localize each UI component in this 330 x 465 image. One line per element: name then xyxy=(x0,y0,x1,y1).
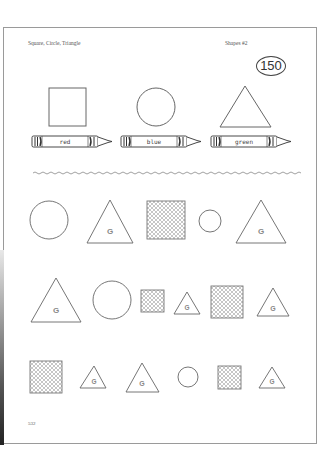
triangle-letter: G xyxy=(258,227,264,236)
hatched-square-shape xyxy=(211,286,243,318)
crayon-label-red: red xyxy=(60,138,71,145)
triangle-letter: G xyxy=(91,378,96,385)
hatched-square-shape xyxy=(147,201,185,239)
key-triangle xyxy=(220,86,271,127)
worksheet-artwork: red blue green G G G G G G G xyxy=(0,0,330,465)
triangle-shape xyxy=(236,200,286,243)
triangle-letter: G xyxy=(107,227,113,236)
key-circle xyxy=(137,88,175,126)
wavy-divider xyxy=(33,172,301,174)
circle-shape xyxy=(30,201,68,239)
hatched-square-shape xyxy=(218,366,241,389)
hatched-square-shape xyxy=(30,361,62,393)
triangle-shape xyxy=(126,363,159,392)
small-circle-shape xyxy=(199,210,221,232)
shape-row-1: G G xyxy=(30,200,286,243)
triangle-letter: G xyxy=(270,305,276,312)
key-square xyxy=(49,88,86,126)
crayon-green: green xyxy=(211,136,291,147)
hatched-square-shape xyxy=(141,290,164,312)
crayon-label-green: green xyxy=(235,138,253,146)
triangle-shape xyxy=(31,278,81,322)
triangle-shape xyxy=(87,200,133,243)
shape-row-2: G G G xyxy=(31,278,289,322)
crayon-red: red xyxy=(32,136,112,147)
crayon-blue: blue xyxy=(121,136,201,147)
triangle-letter: G xyxy=(139,380,145,387)
crayon-label-blue: blue xyxy=(147,138,162,145)
triangle-letter: G xyxy=(53,306,59,315)
triangle-letter: G xyxy=(184,304,189,311)
shape-row-3: G G G xyxy=(30,361,285,393)
triangle-letter: G xyxy=(269,378,274,385)
small-circle-shape xyxy=(178,367,198,387)
circle-shape xyxy=(93,281,131,319)
